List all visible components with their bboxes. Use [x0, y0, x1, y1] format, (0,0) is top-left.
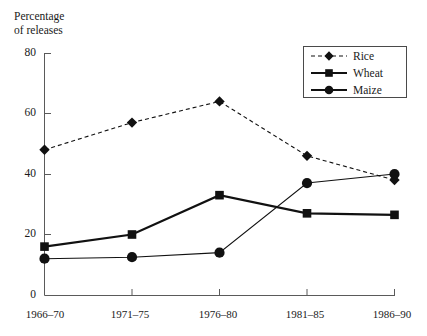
- line-maize: [45, 174, 395, 259]
- data-point-diamond: [214, 96, 224, 106]
- legend-label-wheat: Wheat: [353, 67, 383, 79]
- data-point-diamond: [39, 145, 49, 155]
- circle-icon: [325, 86, 334, 95]
- legend-label-maize: Maize: [353, 84, 382, 96]
- x-axis-ticks: [45, 289, 395, 296]
- data-point-square: [303, 209, 312, 218]
- data-point-square: [128, 230, 137, 239]
- legend-entry-maize: Maize: [304, 82, 408, 98]
- legend-entry-wheat: Wheat: [304, 65, 408, 81]
- series-rice: [39, 96, 399, 185]
- line-rice: [45, 101, 395, 180]
- y-axis-ticks: [45, 54, 52, 235]
- series-layer: [39, 96, 399, 264]
- line-wheat: [45, 195, 395, 246]
- data-point-square: [40, 242, 49, 251]
- data-point-square: [215, 191, 224, 200]
- data-point-circle: [39, 254, 49, 264]
- legend-entry-rice: Rice: [304, 48, 408, 64]
- series-wheat: [40, 191, 399, 251]
- line-chart-figure: Percentage of releases 80 60 40 20 0 196…: [0, 0, 427, 336]
- diamond-icon: [324, 51, 333, 61]
- data-point-diamond: [127, 117, 137, 127]
- square-icon: [325, 69, 333, 77]
- data-point-circle: [302, 178, 312, 188]
- legend-label-rice: Rice: [353, 50, 374, 62]
- legend: Rice Wheat Maize: [303, 46, 407, 98]
- legend-sample-maize: [309, 83, 349, 97]
- data-point-square: [390, 211, 399, 220]
- data-point-circle: [389, 169, 399, 179]
- data-point-circle: [127, 252, 137, 262]
- data-point-circle: [214, 248, 224, 258]
- legend-sample-wheat: [309, 66, 349, 80]
- series-maize: [39, 169, 399, 264]
- legend-sample-rice: [309, 49, 349, 63]
- data-point-diamond: [302, 151, 312, 161]
